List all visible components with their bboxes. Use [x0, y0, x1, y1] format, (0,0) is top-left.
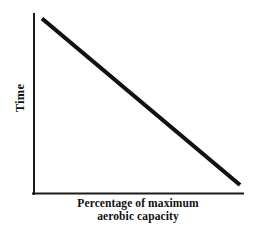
x-axis-label-line-2: aerobic capacity — [33, 210, 243, 223]
x-axis-label-line-1: Percentage of maximum — [33, 197, 243, 210]
x-axis-label: Percentage of maximum aerobic capacity — [33, 197, 243, 222]
y-axis-label: Time — [0, 78, 40, 118]
trend-line-series-1 — [42, 19, 240, 186]
chart-figure: Time Percentage of maximum aerobic capac… — [0, 0, 254, 230]
